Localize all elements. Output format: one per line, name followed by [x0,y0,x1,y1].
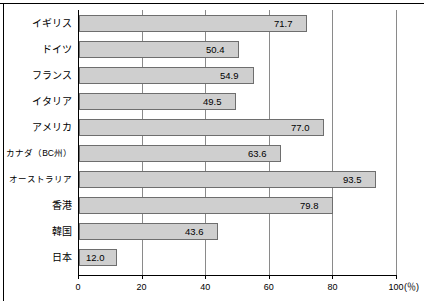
x-axis-line [78,275,396,276]
plot-area: 0 20 40 60 80 100 (％) イギリス 71.7 ドイツ 50.4… [78,10,396,275]
bar-value-label: 77.0 [291,121,310,134]
category-label: アメリカ [0,119,72,136]
x-tick-80 [332,275,333,279]
category-label: オーストラリア [0,171,72,188]
category-label: 香港 [0,197,72,214]
gridline-80 [332,10,333,275]
bar-value-label: 54.9 [220,69,239,82]
category-label: フランス [0,67,72,84]
bar [79,171,376,188]
x-tick-label-40: 40 [190,282,220,292]
category-label: 日本 [0,249,72,266]
x-axis-unit-label: (％) [404,282,419,292]
gridline-60 [269,10,270,275]
bar-value-label: 12.0 [86,251,105,264]
bar [79,197,333,214]
category-label: ドイツ [0,41,72,58]
bar [79,15,307,32]
x-tick-20 [142,275,143,279]
x-tick-label-0: 0 [63,282,93,292]
bar-value-label: 43.6 [185,225,204,238]
bar-chart: 0 20 40 60 80 100 (％) イギリス 71.7 ドイツ 50.4… [0,0,424,303]
bar-value-label: 63.6 [248,147,267,160]
x-tick-60 [269,275,270,279]
x-tick-label-60: 60 [254,282,284,292]
bar [79,119,324,136]
x-tick-40 [205,275,206,279]
category-label: カナダ（BC州） [0,145,72,162]
category-label: イタリア [0,93,72,110]
gridline-100 [396,10,397,275]
bar-value-label: 79.8 [300,199,319,212]
x-tick-label-80: 80 [317,282,347,292]
frame-top-border [0,3,424,4]
bar-value-label: 93.5 [343,173,362,186]
bar-value-label: 50.4 [206,43,225,56]
bar-value-label: 49.5 [203,95,222,108]
x-tick-label-20: 20 [127,282,157,292]
category-label: イギリス [0,15,72,32]
category-label: 韓国 [0,223,72,240]
x-tick-0 [78,275,79,279]
x-tick-100 [396,275,397,279]
bar-value-label: 71.7 [274,17,293,30]
